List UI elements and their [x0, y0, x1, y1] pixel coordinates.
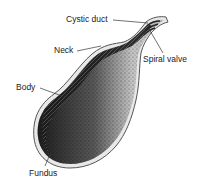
gallbladder-diagram — [0, 0, 201, 186]
label-fundus: Fundus — [29, 169, 57, 178]
leader-spiral-valve — [149, 29, 163, 53]
leader-cystic-duct — [113, 20, 148, 23]
label-spiral-valve: Spiral valve — [143, 55, 187, 64]
label-body: Body — [16, 83, 35, 92]
label-neck: Neck — [54, 46, 73, 55]
label-cystic-duct: Cystic duct — [66, 15, 108, 24]
